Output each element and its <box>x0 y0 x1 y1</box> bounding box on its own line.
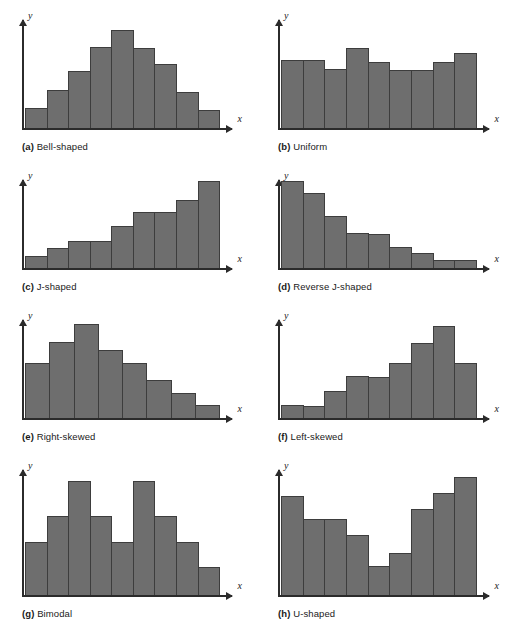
histogram-bar <box>368 62 391 128</box>
histogram-bar <box>176 92 199 128</box>
histogram-bar <box>133 212 156 268</box>
histogram-shapes-figure: y x (a) Bell-shaped y x (b) Uniform y x … <box>0 0 513 627</box>
histogram-bar <box>68 481 91 595</box>
histogram-bar <box>368 377 391 418</box>
histogram-bar <box>281 181 304 268</box>
panel-caption: (h) U-shaped <box>278 608 335 619</box>
x-axis <box>278 418 489 420</box>
histogram-bar <box>433 260 456 268</box>
histogram-bar <box>111 542 134 595</box>
histogram-bar <box>454 260 477 268</box>
y-axis <box>22 470 24 597</box>
histogram-bar <box>411 343 434 418</box>
x-axis-arrow-icon <box>226 592 233 600</box>
x-axis <box>278 268 489 270</box>
panel-tag: (d) <box>278 281 290 292</box>
histogram-bar <box>176 200 199 268</box>
histogram-bar <box>454 53 477 128</box>
x-axis <box>22 128 232 130</box>
histogram-bar <box>90 241 113 268</box>
histogram-bar <box>454 477 477 595</box>
panel-caption: (c) J-shaped <box>22 281 77 292</box>
histogram-bar <box>411 253 434 268</box>
panel-b-uniform: y x (b) Uniform <box>256 0 513 160</box>
panel-caption: (g) Bimodal <box>22 608 72 619</box>
histogram-bar <box>171 393 196 418</box>
histogram-bar <box>324 69 347 128</box>
panel-tag: (c) <box>22 281 34 292</box>
histogram-bar <box>176 542 199 595</box>
histogram-bar <box>74 324 99 418</box>
x-axis <box>22 418 232 420</box>
histogram-bar <box>454 363 477 418</box>
histogram-bar <box>154 212 177 268</box>
histogram-bar <box>346 48 369 128</box>
y-axis <box>278 20 280 130</box>
panel-caption: (d) Reverse J-shaped <box>278 281 372 292</box>
histogram-bar <box>389 70 412 128</box>
histogram-bar <box>389 553 412 595</box>
x-axis-label: x <box>238 254 242 264</box>
x-axis-label: x <box>495 404 499 414</box>
panel-title: Bimodal <box>37 608 72 619</box>
histogram-bar <box>68 241 91 268</box>
plot-area: y x <box>22 464 242 597</box>
histogram-bars <box>25 18 220 128</box>
x-axis-arrow-icon <box>226 415 233 423</box>
x-axis-label: x <box>495 114 499 124</box>
histogram-bar <box>389 247 412 268</box>
panel-tag: (a) <box>22 141 34 152</box>
histogram-bar <box>433 493 456 595</box>
panel-title: Right-skewed <box>37 431 96 442</box>
histogram-bar <box>433 62 456 128</box>
plot-area: y x <box>278 464 499 597</box>
histogram-bar <box>346 535 369 595</box>
x-axis-label: x <box>238 114 242 124</box>
histogram-bar <box>389 363 412 418</box>
y-axis <box>22 180 24 270</box>
x-axis-arrow-icon <box>226 265 233 273</box>
histogram-bar <box>195 405 220 418</box>
histogram-bar <box>47 516 70 595</box>
panel-title: Reverse J-shaped <box>293 281 372 292</box>
histogram-bar <box>25 108 48 128</box>
panel-title: Left-skewed <box>291 431 343 442</box>
panel-e-right-skewed: y x (e) Right-skewed <box>0 300 256 450</box>
histogram-bar <box>47 90 70 129</box>
histogram-bar <box>90 47 113 128</box>
histogram-bar <box>49 342 74 418</box>
y-axis <box>278 320 280 420</box>
panel-a-bell-shaped: y x (a) Bell-shaped <box>0 0 256 160</box>
histogram-bars <box>25 468 220 595</box>
plot-area: y x <box>22 314 242 420</box>
histogram-bar <box>281 60 304 128</box>
plot-area: y x <box>278 314 499 420</box>
x-axis-label: x <box>495 581 499 591</box>
histogram-bar <box>368 566 391 595</box>
panel-c-j-shaped: y x (c) J-shaped <box>0 160 256 300</box>
histogram-bar <box>198 110 221 128</box>
plot-area: y x <box>278 14 499 130</box>
histogram-bar <box>146 380 171 418</box>
histogram-bar <box>154 64 177 128</box>
histogram-bar <box>90 516 113 595</box>
panel-f-left-skewed: y x (f) Left-skewed <box>256 300 513 450</box>
y-axis <box>278 470 280 597</box>
panel-caption: (b) Uniform <box>278 141 327 152</box>
panel-tag: (h) <box>278 608 290 619</box>
histogram-bar <box>411 509 434 595</box>
panel-caption: (f) Left-skewed <box>278 431 343 442</box>
x-axis <box>278 595 489 597</box>
histogram-bar <box>281 496 304 595</box>
histogram-bar <box>133 48 156 128</box>
histogram-bar <box>368 234 391 268</box>
x-axis-arrow-icon <box>483 415 490 423</box>
plot-area: y x <box>22 174 242 270</box>
histogram-bar <box>25 363 50 418</box>
x-axis-label: x <box>238 581 242 591</box>
x-axis-arrow-icon <box>226 125 233 133</box>
histogram-bar <box>346 376 369 418</box>
panel-caption: (a) Bell-shaped <box>22 141 88 152</box>
histogram-bar <box>47 248 70 268</box>
y-axis <box>22 320 24 420</box>
